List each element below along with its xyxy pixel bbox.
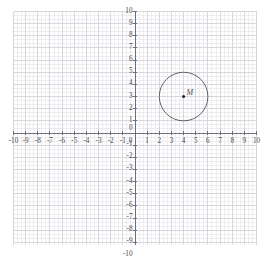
x-tick-label-neg9: -9	[23, 138, 29, 145]
plotted-points	[182, 95, 185, 98]
x-tick-label-neg1: -1	[120, 138, 126, 145]
x-tick-label-8: 8	[230, 138, 234, 145]
y-tick-label-neg4: -4	[127, 178, 133, 185]
y-tick-label-5: 5	[129, 69, 133, 76]
x-tick-label-9: 9	[243, 138, 247, 145]
x-tick-label-neg6: -6	[59, 138, 65, 145]
x-tick-label-neg5: -5	[71, 138, 77, 145]
x-tick-label-neg10: -10	[9, 138, 19, 145]
x-tick-label-6: 6	[206, 138, 210, 145]
y-tick-label-neg1: -1	[127, 142, 133, 149]
y-tick-label-neg3: -3	[127, 166, 133, 173]
y-tick-label-neg2: -2	[127, 154, 133, 161]
x-tick-label-3: 3	[170, 138, 174, 145]
y-tick-label-neg7: -7	[127, 214, 133, 221]
point-marker-m	[182, 95, 185, 98]
y-tick-label-4: 4	[129, 81, 133, 88]
y-tick-label-10: 10	[125, 8, 132, 15]
y-tick-label-neg9: -9	[127, 239, 133, 246]
x-tick-label-neg4: -4	[83, 138, 89, 145]
x-tick-label-neg7: -7	[47, 138, 53, 145]
y-tick-label-neg10: -10	[123, 251, 133, 258]
point-label-m: M	[187, 89, 194, 97]
x-tick-label-neg8: -8	[35, 138, 41, 145]
x-tick-label-10: 10	[253, 138, 260, 145]
y-tick-label-3: 3	[129, 93, 133, 100]
y-tick-label-2: 2	[129, 105, 133, 112]
y-tick-label-neg5: -5	[127, 190, 133, 197]
y-tick-label-neg6: -6	[127, 202, 133, 209]
x-tick-label-neg3: -3	[96, 138, 102, 145]
y-tick-label-8: 8	[129, 32, 133, 39]
x-tick-label-2: 2	[158, 138, 162, 145]
y-tick-label-9: 9	[129, 20, 133, 27]
y-tick-label-neg8: -8	[127, 227, 133, 234]
x-tick-label-7: 7	[218, 138, 222, 145]
x-tick-label-5: 5	[194, 138, 198, 145]
y-tick-label-6: 6	[129, 56, 133, 63]
y-tick-label-0: 0	[129, 125, 133, 132]
x-tick-label-4: 4	[182, 138, 186, 145]
y-tick-label-7: 7	[129, 44, 133, 51]
x-tick-label-1: 1	[145, 138, 149, 145]
x-tick-label-neg2: -2	[108, 138, 114, 145]
